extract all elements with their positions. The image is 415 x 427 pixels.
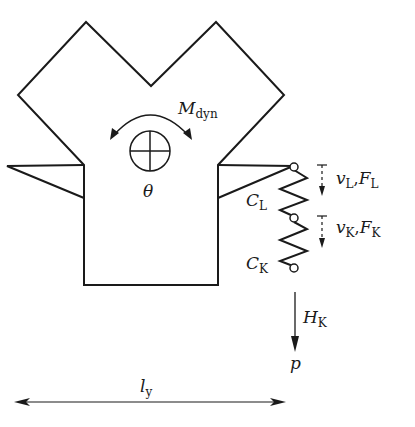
rotation-arrowhead-left [110,128,119,140]
rotation-arrowhead-right [183,128,192,140]
rotation-label: θ [143,183,153,200]
center-of-mass-icon [130,131,170,171]
spring-icon [280,222,307,266]
spring-bottom-node [290,264,298,272]
rotation-arrow-icon [113,115,189,136]
left-wing [7,165,84,198]
spring-top-node [290,163,298,171]
disp-force-K-label: vK,FK [336,219,380,236]
spring-middle-node [290,214,298,222]
spring-icon [280,170,307,216]
diagram-canvas: Mdyn θ CL CK vL,FL vK,FK HK p ly [0,0,415,427]
spring-L-label: CL [246,192,267,209]
moment-label: Mdyn [178,100,218,117]
disp-force-L-label: vL,FL [336,170,378,187]
spring-K-label: CK [246,255,268,272]
diagram-drawing [0,0,415,427]
length-label: ly [140,378,152,395]
double-arrow-icon [14,398,286,406]
arrow-down-icon [291,292,299,352]
body-outline [18,22,284,285]
load-p-label: p [290,355,301,372]
force-H-label: HK [303,309,327,326]
